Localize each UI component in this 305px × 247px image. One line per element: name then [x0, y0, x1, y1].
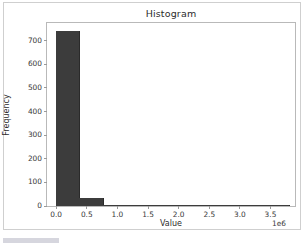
x-tick-label: 3.0 [234, 210, 246, 219]
y-tick-label: 700 [28, 36, 42, 45]
x-tick-label: 2.0 [173, 210, 185, 219]
plot-area: 01002003004005006007000.00.51.01.52.02.5… [46, 22, 296, 207]
x-tick-mark [117, 206, 118, 209]
figure-canvas: Histogram Frequency 01002003004005006007… [3, 2, 301, 230]
chart-title: Histogram [46, 8, 296, 19]
y-tick-label: 100 [28, 177, 42, 186]
x-tick-mark [86, 206, 87, 209]
y-tick-mark [44, 64, 47, 65]
x-tick-label: 2.5 [203, 210, 215, 219]
y-tick-mark [44, 40, 47, 41]
x-tick-label: 3.5 [265, 210, 277, 219]
x-tick-mark [209, 206, 210, 209]
x-axis-exponent-label: 1e6 [272, 219, 286, 228]
y-tick-label: 400 [28, 107, 42, 116]
x-tick-mark [56, 206, 57, 209]
y-tick-mark [44, 135, 47, 136]
x-tick-label: 1.5 [142, 210, 154, 219]
histogram-bar [79, 198, 103, 206]
x-tick-label: 0.5 [81, 210, 93, 219]
histogram-bar [149, 205, 173, 206]
x-tick-mark [148, 206, 149, 209]
y-tick-mark [44, 206, 47, 207]
y-tick-mark [44, 87, 47, 88]
histogram-bar [56, 31, 80, 206]
x-tick-label: 1.0 [112, 210, 124, 219]
x-tick-mark [239, 206, 240, 209]
y-tick-label: 200 [28, 154, 42, 163]
x-tick-mark [270, 206, 271, 209]
y-tick-label: 600 [28, 59, 42, 68]
y-tick-label: 500 [28, 83, 42, 92]
x-axis-label: Value [46, 219, 296, 228]
y-tick-label: 0 [37, 201, 42, 210]
bottom-ui-strip [3, 238, 59, 243]
y-tick-mark [44, 158, 47, 159]
histogram-bar [242, 205, 266, 206]
histogram-bar [173, 205, 197, 206]
x-tick-label: 0.0 [50, 210, 62, 219]
y-axis-label: Frequency [2, 94, 11, 135]
histogram-bar [103, 205, 127, 206]
y-tick-mark [44, 111, 47, 112]
x-tick-mark [178, 206, 179, 209]
histogram-bars [47, 23, 295, 206]
y-tick-label: 300 [28, 130, 42, 139]
y-tick-mark [44, 182, 47, 183]
